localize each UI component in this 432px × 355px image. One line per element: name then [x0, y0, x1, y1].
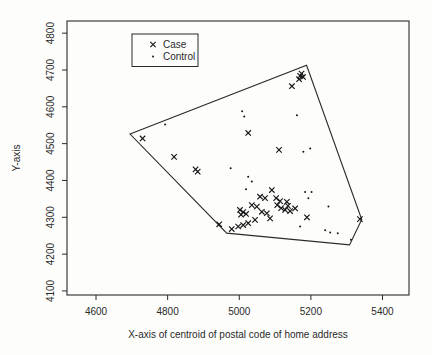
- x-axis-title: X-axis of centroid of postal code of hom…: [128, 329, 348, 340]
- control-marker: [311, 191, 313, 193]
- legend-control-marker-icon: [152, 56, 154, 58]
- control-marker: [251, 181, 253, 183]
- legend-label-control: Control: [163, 51, 195, 62]
- x-tick-label: 5400: [371, 306, 394, 317]
- control-marker: [241, 110, 243, 112]
- control-marker: [164, 123, 166, 125]
- y-tick-label: 4800: [45, 22, 56, 45]
- scatter-plot-figure: 4600480050005200540041004200430044004500…: [0, 0, 432, 355]
- y-tick-label: 4300: [45, 206, 56, 229]
- control-marker: [324, 229, 326, 231]
- control-marker: [296, 114, 298, 116]
- control-marker: [350, 239, 352, 241]
- scatter-plot: 4600480050005200540041004200430044004500…: [0, 0, 432, 355]
- y-tick-label: 4100: [45, 279, 56, 302]
- control-marker: [302, 151, 304, 153]
- control-marker: [243, 115, 245, 117]
- x-tick-label: 5200: [300, 306, 323, 317]
- control-marker: [247, 176, 249, 178]
- control-marker: [337, 232, 339, 234]
- figure-background: [0, 0, 432, 355]
- y-tick-label: 4200: [45, 243, 56, 266]
- control-marker: [327, 206, 329, 208]
- y-tick-label: 4600: [45, 95, 56, 118]
- control-marker: [299, 226, 301, 228]
- control-marker: [304, 191, 306, 193]
- legend-label-case: Case: [163, 39, 187, 50]
- y-tick-label: 4400: [45, 169, 56, 192]
- control-marker: [230, 167, 232, 169]
- y-tick-label: 4700: [45, 58, 56, 81]
- x-tick-label: 4800: [157, 306, 180, 317]
- x-tick-label: 5000: [228, 306, 251, 317]
- control-marker: [329, 231, 331, 233]
- legend: CaseControl: [132, 34, 198, 67]
- y-tick-label: 4500: [45, 132, 56, 155]
- y-axis-title: Y-axis: [11, 145, 22, 172]
- control-marker: [309, 147, 311, 149]
- x-tick-label: 4600: [85, 306, 108, 317]
- control-marker: [307, 197, 309, 199]
- control-marker: [245, 188, 247, 190]
